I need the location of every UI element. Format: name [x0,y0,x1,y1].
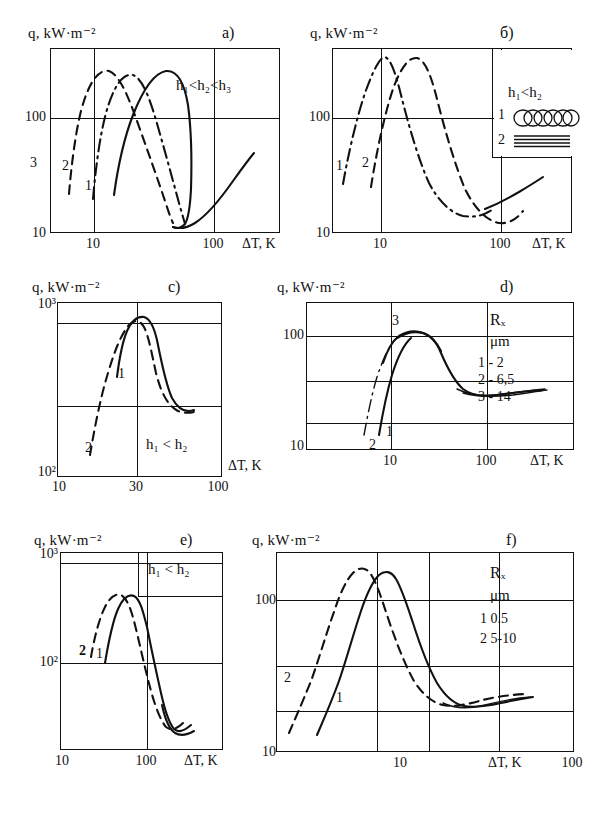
panel-a-series-1-tail [173,153,254,228]
panel-e-annotation: h₁ < h₂ [148,561,189,578]
panel-c-series-2 [90,321,198,455]
panel-c-ytick-1000: 10³ [14,296,56,312]
panel-d-xtick-10: 10 [383,453,397,469]
panel-a-x-axis-title: ΔT, K [242,236,276,252]
panel-f-legend-item-1: 1 0.5 [480,612,508,627]
panel-d-y-axis-title: q, kW·m⁻² [277,278,345,296]
panel-d-curve-label-2: 2 [369,437,376,453]
panel-d-legend-item-1: 1 - 2 [478,356,504,371]
panel-f-xtick-100: 100 [562,755,583,771]
panel-c-plot-box [57,302,222,477]
panel-b-curve-label-1: 1 [336,158,343,174]
panel-d-curve-label-1: 1 [386,424,393,440]
panel-e-xtick-10: 10 [55,753,69,769]
coil-icon [512,108,586,128]
panel-c-ytick-100: 10² [14,464,56,480]
panel-c-curves [58,303,223,478]
panel-a-curves [51,49,281,234]
panel-b-legend-annotation: h₁<h₂ [508,84,542,101]
panel-b-x-axis-title: ΔT, K [532,236,566,252]
panel-e-letter: e) [180,531,192,549]
panel-c-xtick-30: 30 [129,479,143,495]
stack-lines-icon [514,134,574,150]
panel-d-xtick-100: 100 [476,453,497,469]
panel-c-series-1 [117,317,194,411]
panel-e-curve-label-2: 2 [79,643,86,659]
panel-a-series-3 [69,71,173,223]
panel-f-legend-title: Rₓ [490,565,505,582]
panel-a-curve-label-3: 3 [30,155,37,171]
panel-d-curves [307,303,575,451]
panel-a-plot-box [50,48,280,233]
panel-f-ytick-10: 10 [238,744,276,760]
panel-d-x-axis-title: ΔT, K [530,453,564,469]
panel-a-curve-label-2: 2 [62,158,69,174]
panel-c-annotation: h₁ < h₂ [146,436,187,453]
panel-f-curve-label-2: 2 [284,670,291,686]
panel-b-legend-key-2: 2 [498,133,505,148]
panel-f-plot-box [276,552,574,752]
panel-b-xtick-100: 100 [490,236,511,252]
panel-d-series-1 [379,338,411,435]
panel-f-ytick-100: 100 [238,592,276,608]
panel-b-ytick-100: 100 [292,109,330,125]
panel-f-y-axis-title: q, kW·m⁻² [252,531,320,549]
panel-a-ytick-10: 10 [8,225,46,241]
panel-b-legend-key-1: 1 [498,108,505,123]
panel-a-letter: a) [222,24,234,42]
figure-boiling-curves: q, kW·m⁻² a) 100 10 10 100 ΔT, K 3 2 1 [0,0,614,816]
panel-e-x-axis-title: ΔT, K [184,753,218,769]
panel-d-legend-item-3: 3 - 14 [478,390,511,405]
panel-a-series-2 [93,75,185,224]
panel-d-letter: d) [500,278,513,296]
panel-c-y-axis-title: q, kW·m⁻² [32,278,100,296]
panel-d-series-plateau [397,332,543,396]
panel-b-series-tail [485,177,543,209]
panel-e-xtick-100: 100 [136,753,157,769]
panel-a-ytick-100: 100 [8,109,46,125]
panel-a-annotation: h₁<h₂<h₃ [176,77,231,94]
panel-d-series-3 [383,331,441,363]
panel-a-xtick-100: 100 [203,236,224,252]
panel-d-legend-units: μm [490,334,510,350]
panel-b-y-axis-title: q, kW·m⁻² [310,24,378,42]
panel-c-curve-label-1: 1 [118,366,125,382]
panel-f-letter: f) [506,531,517,549]
panel-d-ytick-100: 100 [266,327,304,343]
panel-d-ytick-10: 10 [266,438,304,454]
panel-f-x-axis-title: ΔT, K [488,755,522,771]
panel-d-plot-box [306,302,574,450]
panel-e-ytick-100: 10² [16,654,58,670]
panel-c-letter: c) [168,278,180,296]
panel-e-curve-label-1: 1 [96,646,103,662]
panel-a-xtick-10: 10 [86,236,100,252]
panel-f-curve-label-1: 1 [336,690,343,706]
panel-b-xtick-10: 10 [373,236,387,252]
panel-d-curve-label-3: 3 [392,313,399,329]
panel-f-curves [277,553,575,753]
panel-c-xtick-100: 100 [208,479,229,495]
panel-c-xtick-10: 10 [52,479,66,495]
panel-c-x-axis-title: ΔT, K [228,458,262,474]
panel-f-xtick-10: 10 [393,755,407,771]
panel-b-series-1 [343,57,493,217]
panel-e-ytick-1000: 10³ [16,546,58,562]
panel-d-legend-item-2: 2 - 6,5 [478,373,514,388]
panel-d-legend-title: Rₓ [490,312,505,329]
panel-b-ytick-10: 10 [292,225,330,241]
panel-e-series-1 [105,596,191,732]
panel-b-letter: б) [500,24,513,42]
panel-c-curve-label-2: 2 [85,440,92,456]
panel-b-curve-label-2: 2 [362,155,369,171]
panel-f-legend-item-2: 2 5-10 [480,632,516,647]
panel-a-curve-label-1: 1 [85,178,92,194]
panel-a-y-axis-title: q, kW·m⁻² [28,24,96,42]
panel-f-legend-units: μm [490,588,510,604]
